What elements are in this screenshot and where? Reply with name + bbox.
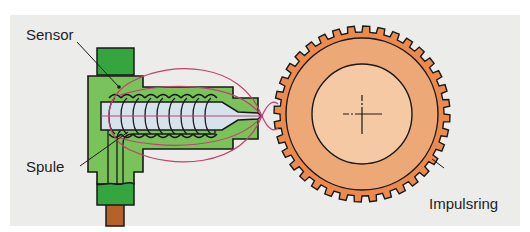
leader-dot-sensor [117, 85, 121, 89]
sensor-connector [97, 183, 134, 205]
sensor-cap-top [97, 48, 134, 75]
cable [106, 204, 124, 226]
label-sensor: Sensor [26, 27, 74, 42]
impulse-ring [274, 26, 450, 202]
label-impulse-ring: Impulsring [429, 196, 498, 211]
label-coil: Spule [26, 159, 64, 174]
